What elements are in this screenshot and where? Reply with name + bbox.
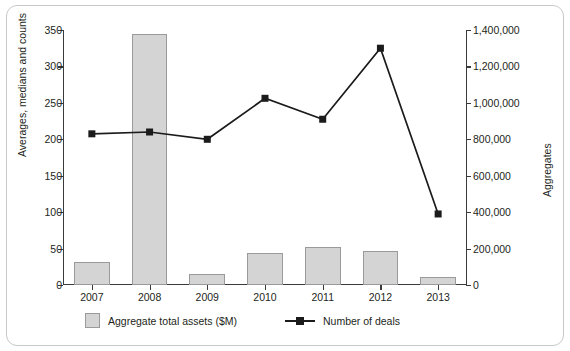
right-tick-label: 600,000 [473,170,511,182]
right-tick-label: 1,200,000 [473,60,520,72]
deal-marker [204,136,211,143]
line-series [63,30,467,285]
bar-swatch-icon [85,313,100,328]
x-tick-label: 2007 [80,291,103,303]
deal-marker [435,210,442,217]
left-tick-label: 150 [44,170,64,182]
left-tick-label: 200 [44,133,64,145]
left-tick-label: 250 [44,97,64,109]
x-tick [207,285,208,290]
legend-item-number-of-deals: Number of deals [285,315,400,327]
right-tick [466,285,471,286]
x-tick-label: 2009 [196,291,219,303]
left-tick-label: 350 [44,24,64,36]
x-tick-label: 2013 [426,291,449,303]
right-tick-label: 400,000 [473,206,511,218]
legend-label-aggregate-total-assets: Aggregate total assets ($M) [108,315,237,327]
right-tick-label: 0 [473,279,479,291]
deal-marker [262,95,269,102]
left-tick-label: 300 [44,60,64,72]
line-marker-icon [285,315,315,327]
left-tick-label: 50 [50,243,64,255]
chart-figure: Averages, medians and counts Aggregates … [0,0,570,351]
x-tick-label: 2011 [311,291,334,303]
x-tick [323,285,324,290]
x-tick [150,285,151,290]
legend-label-number-of-deals: Number of deals [323,315,400,327]
deals-polyline [92,48,438,214]
right-tick-label: 800,000 [473,133,511,145]
chart-legend: Aggregate total assets ($M) Number of de… [85,313,400,328]
right-tick-label: 200,000 [473,243,511,255]
deal-marker [146,129,153,136]
left-axis-title: Averages, medians and counts [16,13,28,157]
right-tick-label: 1,000,000 [473,97,520,109]
legend-item-aggregate-total-assets: Aggregate total assets ($M) [85,313,237,328]
x-tick-label: 2010 [253,291,276,303]
x-tick [438,285,439,290]
deal-marker [377,45,384,52]
left-tick-label: 100 [44,206,64,218]
x-tick [380,285,381,290]
x-tick [92,285,93,290]
plot-area: 050100150200250300350 0200,000400,000600… [63,30,467,285]
right-tick-label: 1,400,000 [473,24,520,36]
x-tick-label: 2012 [369,291,392,303]
deal-marker [319,116,326,123]
deal-marker [88,130,95,137]
x-tick [265,285,266,290]
right-axis-title: Aggregates [541,143,553,197]
x-tick-label: 2008 [138,291,161,303]
